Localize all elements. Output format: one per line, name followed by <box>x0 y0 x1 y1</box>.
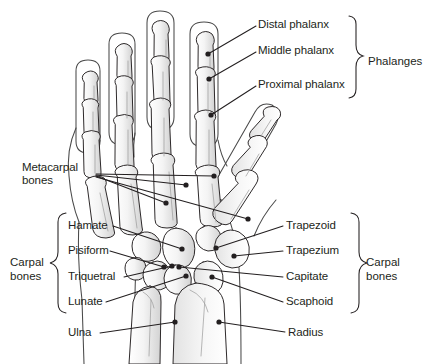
forearm-bones <box>129 283 227 364</box>
dot-radius <box>216 319 221 324</box>
brace-carpal-left <box>50 213 66 313</box>
dot-metacarpal-1 <box>245 216 250 221</box>
dot-trapezium <box>231 253 236 258</box>
label-radius: Radius <box>288 326 323 339</box>
dot-ulna <box>172 319 177 324</box>
label-proximal-phalanx: Proximal phalanx <box>258 78 345 91</box>
brace-phalanges <box>349 16 363 98</box>
label-middle-phalanx: Middle phalanx <box>258 44 334 57</box>
little-finger-bones <box>82 71 115 238</box>
group-label-carpal-bones-right: Carpal bones <box>366 256 400 283</box>
label-pisiform: Pisiform <box>68 244 109 257</box>
brace-carpal-right <box>351 213 367 313</box>
hand-bones-diagram: Distal phalanx Middle phalanx Proximal p… <box>0 0 432 364</box>
dot-lunate <box>183 273 188 278</box>
dot-hamate <box>179 246 184 251</box>
dot-metacarpal-2 <box>211 173 216 178</box>
label-triquetral: Triquetral <box>68 270 115 283</box>
dot-scaphoid <box>209 274 214 279</box>
index-finger-bones <box>149 21 177 229</box>
label-scaphoid: Scaphoid <box>286 295 333 308</box>
dot-proximal-phalanx <box>208 112 213 117</box>
dot-capitate <box>176 264 181 269</box>
dot-metacarpal-3 <box>183 182 188 187</box>
dot-metacarpal-4 <box>163 200 168 205</box>
label-trapezoid: Trapezoid <box>286 219 336 232</box>
dot-pisiform <box>161 264 166 269</box>
group-label-carpal-bones-left: Carpal bones <box>10 256 44 283</box>
label-capitate: Capitate <box>286 270 328 283</box>
label-hamate: Hamate <box>68 219 108 232</box>
label-trapezium: Trapezium <box>286 244 339 257</box>
label-metacarpal-bones: Metacarpal bones <box>22 161 78 187</box>
dot-triquetral <box>169 263 174 268</box>
dot-trapezoid <box>213 245 218 250</box>
group-label-phalanges: Phalanges <box>368 55 422 69</box>
dot-middle-phalanx <box>206 76 211 81</box>
bone-shapes <box>82 21 281 364</box>
label-lunate: Lunate <box>68 295 103 308</box>
dot-distal-phalanx <box>205 51 210 56</box>
hamate-bone <box>132 232 161 261</box>
label-ulna: Ulna <box>68 326 91 339</box>
trapezium-bone <box>215 230 250 268</box>
label-distal-phalanx: Distal phalanx <box>258 18 329 31</box>
